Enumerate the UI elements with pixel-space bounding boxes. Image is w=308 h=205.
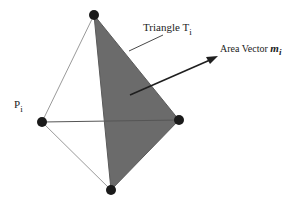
point-label: Pi xyxy=(14,98,23,114)
area-vector-arrowhead-icon xyxy=(206,56,218,64)
edge-top-left xyxy=(42,15,94,122)
triangle-leader-line xyxy=(129,35,163,51)
tetrahedron-diagram: Triangle Ti Area Vector mi Pi xyxy=(0,0,308,205)
edge-left-bottom xyxy=(42,122,111,190)
vertex-left xyxy=(37,117,47,127)
vertex-top xyxy=(89,10,99,20)
area-vector-label: Area Vector mi xyxy=(220,42,282,57)
vertex-bottom xyxy=(106,185,116,195)
vertex-right xyxy=(174,115,184,125)
triangle-label: Triangle Ti xyxy=(143,21,192,37)
